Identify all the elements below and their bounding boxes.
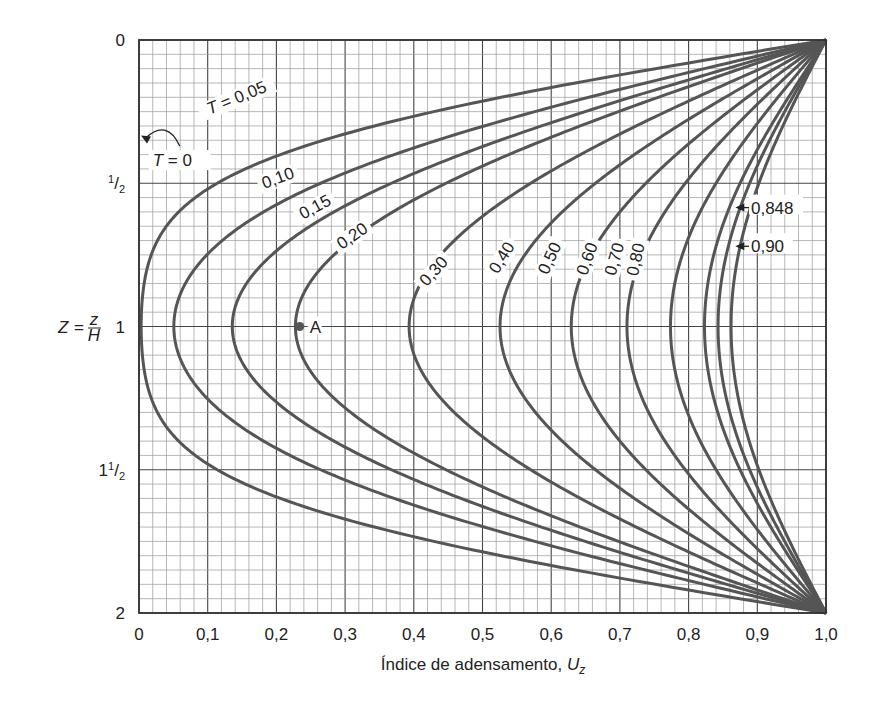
curve-label: 0,20	[330, 216, 375, 256]
t0-annotation: T = 0	[153, 151, 192, 170]
x-tick-label: 0,6	[539, 625, 563, 644]
x-tick-label: 0,1	[196, 625, 220, 644]
x-tick-label: 0,3	[333, 625, 357, 644]
svg-text:0,10: 0,10	[259, 163, 297, 192]
y-tick-label: 11/2	[99, 460, 125, 482]
y-tick-label: 0	[116, 31, 125, 50]
svg-text:=: =	[74, 318, 84, 337]
svg-text:T = 0,05: T = 0,05	[204, 77, 269, 118]
x-tick-label: 0,9	[745, 625, 769, 644]
y-tick-label: 1	[116, 318, 125, 337]
point-a-marker	[295, 322, 304, 331]
x-tick-label: 0,4	[402, 625, 426, 644]
svg-text:0,60: 0,60	[573, 240, 602, 278]
x-axis-title: Índice de adensamento, Uz	[381, 655, 585, 677]
curve-label: 0,60	[571, 236, 603, 282]
x-tick-label: 0,2	[265, 625, 289, 644]
x-tick-label: 0	[134, 625, 143, 644]
curve-label: 0,40	[483, 235, 521, 281]
svg-text:H: H	[88, 326, 101, 345]
consolidation-isochrones-chart: 00,10,20,30,40,50,60,70,80,91,0 01/2111/…	[0, 0, 882, 706]
x-tick-label: 0,5	[471, 625, 495, 644]
y-axis-title: Z = z H	[57, 310, 101, 345]
curve-label: 0,10	[255, 162, 301, 194]
y-tick-label: 1/2	[108, 173, 125, 195]
point-a-label: A	[310, 318, 322, 337]
curve-callout-label: 0,90	[751, 237, 784, 256]
y-tick-label: 2	[116, 604, 125, 623]
y-axis-ticks: 01/2111/22	[99, 31, 125, 623]
t0-arrow	[145, 130, 180, 146]
x-tick-label: 0,8	[677, 625, 701, 644]
x-tick-label: 1,0	[814, 625, 838, 644]
curve-callout-label: 0,848	[751, 199, 794, 218]
svg-text:Z: Z	[57, 318, 69, 337]
x-tick-label: 0,7	[608, 625, 632, 644]
x-axis-ticks: 00,10,20,30,40,50,60,70,80,91,0	[134, 625, 838, 644]
